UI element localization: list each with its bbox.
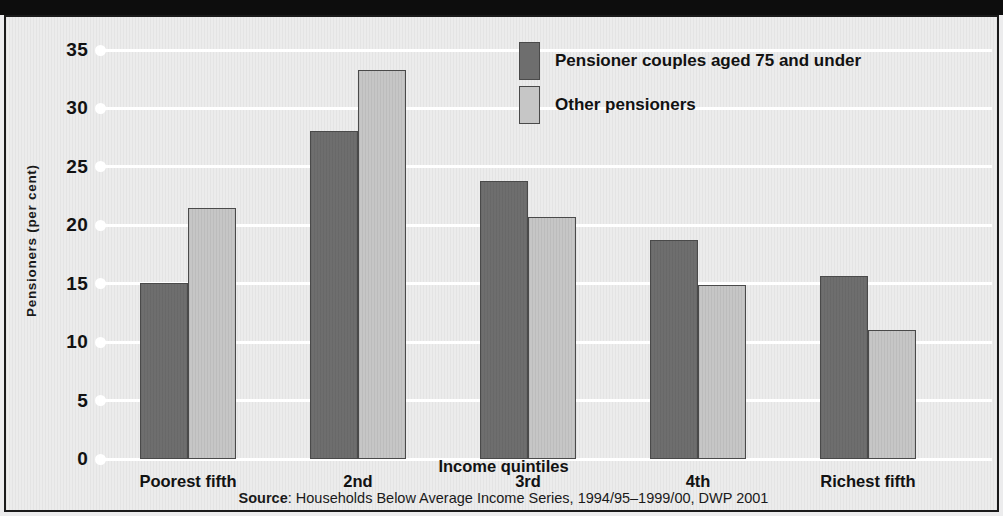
- legend-item-0[interactable]: Pensioner couples aged 75 and under: [519, 39, 861, 83]
- bar-1-1: [358, 70, 406, 459]
- y-tick-label-20: 20: [66, 214, 88, 236]
- chart-figure: Pensioners (per cent) 05101520253035 Poo…: [0, 0, 1003, 516]
- bar-1-0: [310, 131, 358, 459]
- bar-0-0: [140, 283, 188, 459]
- legend-label-1: Other pensioners: [555, 95, 696, 115]
- bar-3-0: [650, 240, 698, 459]
- legend-swatch-icon-1: [519, 86, 540, 124]
- y-tick-label-35: 35: [66, 39, 88, 61]
- y-tick-dot-15: [95, 278, 106, 289]
- bar-4-1: [868, 330, 916, 459]
- x-axis-title: Income quintiles: [6, 457, 1001, 476]
- y-tick-dot-25: [95, 161, 106, 172]
- chart-card: Pensioners (per cent) 05101520253035 Poo…: [4, 15, 999, 512]
- source-prefix: Source: [239, 490, 288, 506]
- y-tick-dot-10: [95, 337, 106, 348]
- source-separator: :: [288, 490, 296, 506]
- y-tick-label-25: 25: [66, 156, 88, 178]
- source-text: Households Below Average Income Series, …: [296, 490, 769, 506]
- bar-0-1: [188, 208, 236, 459]
- y-tick-dot-30: [95, 103, 106, 114]
- y-tick-dot-20: [95, 220, 106, 231]
- bar-2-1: [528, 217, 576, 459]
- y-tick-dot-5: [95, 395, 106, 406]
- legend-item-1[interactable]: Other pensioners: [519, 83, 861, 127]
- y-tick-dot-35: [95, 45, 106, 56]
- bar-4-0: [820, 276, 868, 459]
- bar-2-0: [480, 181, 528, 459]
- top-black-band: [0, 0, 1003, 15]
- legend-label-0: Pensioner couples aged 75 and under: [555, 51, 861, 71]
- chart-legend: Pensioner couples aged 75 and under Othe…: [519, 39, 861, 127]
- y-tick-label-15: 15: [66, 273, 88, 295]
- source-note: Source: Households Below Average Income …: [6, 490, 1001, 506]
- y-tick-label-30: 30: [66, 97, 88, 119]
- y-tick-label-10: 10: [66, 331, 88, 353]
- y-axis-title: Pensioners (per cent): [24, 164, 39, 317]
- bar-3-1: [698, 285, 746, 459]
- gridline-25: [102, 165, 992, 168]
- y-tick-label-5: 5: [77, 390, 88, 412]
- legend-swatch-icon-0: [519, 42, 540, 80]
